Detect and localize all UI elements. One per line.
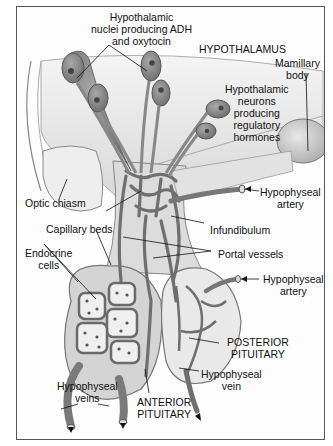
label-line: PITUITARY [227,348,289,360]
label-line: Hypothalamic [225,83,289,95]
label-line: Hypophyseal [263,273,324,285]
label-line: ANTERIOR [137,396,191,408]
label-line: vein [201,380,262,392]
label-hypophyseal-vein: Hypophyseal vein [201,368,262,392]
label-infundibulum: Infundibulum [210,224,270,236]
label-line: Hypophyseal [201,368,262,380]
label-mamillary-body: Mamillary body [275,57,320,81]
anterior-hypophyseal-vein-right [119,379,124,421]
label-line: Hypophyseal [260,186,321,198]
label-endocrine-cells: Endocrine cells [25,247,72,271]
label-line: PITUITARY [137,408,191,420]
label-line: Hypophyseal [57,380,118,392]
label-line: and oxytocin [91,35,192,47]
label-portal-vessels: Portal vessels [218,248,283,260]
label-hypophyseal-artery-lower: Hypophyseal artery [263,273,324,297]
label-hypophyseal-artery-upper: Hypophyseal artery [260,186,321,210]
label-line: artery [260,198,321,210]
label-line: regulatory [225,119,289,131]
label-regulatory-neurons: Hypothalamic neurons producing regulator… [225,83,289,143]
label-line: POSTERIOR [227,336,289,348]
label-capillary-beds: Capillary beds [46,223,113,235]
label-adh-nuclei: Hypothalamic nuclei producing ADH and ox… [91,11,192,47]
label-line: nuclei producing ADH [91,23,192,35]
label-line: producing [225,107,289,119]
label-line: Mamillary [275,57,320,69]
label-line: hormones [225,131,289,143]
label-line: Hypothalamic [91,11,192,23]
label-optic-chiasm: Optic chiasm [25,197,86,209]
label-line: neurons [225,95,289,107]
label-anterior-pituitary: ANTERIOR PITUITARY [137,396,191,420]
label-line: veins [57,392,118,404]
diagram-frame: Hypothalamic nuclei producing ADH and ox… [16,6,325,440]
label-posterior-pituitary: POSTERIOR PITUITARY [227,336,289,360]
label-line: body [275,69,320,81]
label-line: Endocrine [25,247,72,259]
label-line: cells [25,259,72,271]
label-hypothalamus: HYPOTHALAMUS [199,43,286,55]
label-hypophyseal-veins: Hypophyseal veins [57,380,118,404]
label-line: artery [263,285,324,297]
